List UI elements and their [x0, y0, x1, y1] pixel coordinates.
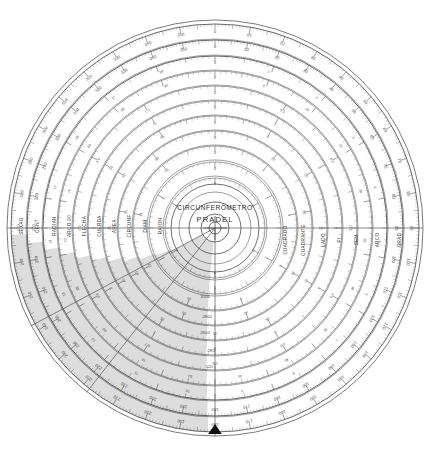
tick-label: 0: [214, 121, 216, 125]
slide-rule-canvas: 0102030405060708090100110120130140150160…: [0, 0, 431, 450]
tick-label: 0: [214, 136, 216, 140]
cursor-shade-region[interactable]: [11, 235, 213, 432]
scale-label-sexag: SEXAG: [19, 217, 24, 235]
scale-label-grad: GRAD: [397, 232, 402, 247]
tick-label: 25: [362, 238, 366, 242]
scale-label-area: AREA: [112, 218, 117, 232]
tick-label: 45: [237, 374, 242, 379]
tick-label: 0: [214, 76, 216, 80]
tick-label: 0: [214, 106, 216, 110]
scale-label-arco: ARCO: [375, 233, 380, 248]
tick-label: 14: [139, 213, 144, 218]
scale-label-sen: SEN: [354, 235, 359, 246]
circular-slide-rule-dial[interactable]: 0102030405060708090100110120130140150160…: [0, 0, 431, 450]
lower-numeric-label: 3000: [200, 294, 210, 299]
scale-label-lado: LADO: [321, 233, 326, 247]
scale-label-radian: RADIAN: [52, 216, 57, 235]
brand-line-2: PRADEL: [197, 215, 234, 224]
scale-label-pi: PI: [337, 237, 342, 242]
tick-label: 0: [214, 167, 216, 171]
scale-label-flecha: FLECHA: [82, 215, 87, 236]
lower-numeric-label: 520: [205, 364, 213, 369]
scale-label-circunf: CIRCUNF: [127, 214, 132, 237]
tick-label: 70: [63, 238, 67, 242]
scale-label-cuadrante: CUADRANTE: [301, 224, 306, 256]
brand-line-1: CIRCUNFERÔMETRO: [177, 203, 252, 211]
lower-numeric-label: 2600: [200, 330, 210, 335]
tick-label: 14: [48, 239, 52, 243]
tick-label: 70: [124, 210, 129, 215]
tick-label: 20: [301, 210, 306, 215]
scale-label-cuadrado: CUADRADO: [283, 225, 288, 254]
scale-label-cent: CENT: [35, 219, 40, 233]
tick-label: 0: [214, 61, 216, 65]
tick-label: 0: [214, 91, 216, 95]
scale-label-cuerda: CUERDA: [97, 215, 102, 237]
scale-label-raion: RAION: [158, 218, 163, 234]
scale-label-diam: DIAM: [143, 220, 148, 233]
tick-label: 0: [214, 151, 216, 155]
scale-label-arco-90: ARCO 90: [67, 215, 72, 237]
lower-numeric-label: 2800: [202, 314, 212, 319]
lower-numeric-label: 285: [207, 348, 215, 353]
